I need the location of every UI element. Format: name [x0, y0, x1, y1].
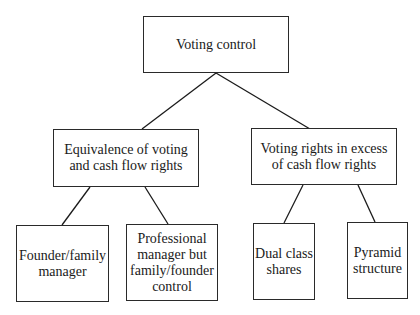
edge-excess-to-dual: [284, 185, 303, 223]
node-equivalence-of-voting-and-cash-flow-rights: Equivalence of voting and cash flow righ…: [53, 129, 199, 187]
node-professional-manager: Professional manager but family/founder …: [126, 224, 218, 301]
node-founder-family-manager: Founder/family manager: [16, 225, 109, 302]
edge-excess-to-pyramid: [358, 185, 375, 222]
edge-root-to-excess: [216, 73, 310, 129]
node-dual-class-shares: Dual class shares: [253, 223, 315, 300]
node-label: Voting control: [176, 37, 256, 53]
node-label: Founder/family manager: [19, 248, 106, 280]
node-voting-control: Voting control: [143, 16, 289, 73]
node-label: Voting rights in excess of cash flow rig…: [261, 141, 388, 173]
node-label: Pyramid structure: [353, 245, 402, 277]
node-voting-rights-in-excess: Voting rights in excess of cash flow rig…: [251, 128, 397, 185]
node-label: Equivalence of voting and cash flow righ…: [64, 142, 188, 174]
node-label: Dual class shares: [255, 246, 313, 278]
node-pyramid-structure: Pyramid structure: [347, 222, 408, 299]
edge-equivalence-to-founder: [62, 187, 90, 225]
node-label: Professional manager but family/founder …: [130, 231, 214, 295]
edge-root-to-equivalence: [142, 73, 216, 129]
edge-equivalence-to-professional: [145, 187, 168, 224]
